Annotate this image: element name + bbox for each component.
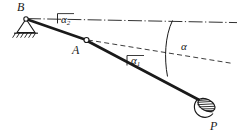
pin-support-icon <box>13 17 38 38</box>
pin-joint-icon <box>84 38 89 43</box>
datum-line-from-b <box>27 19 237 23</box>
label-point-p: P <box>210 120 217 132</box>
label-point-b: B <box>17 1 24 13</box>
member-ba <box>26 19 87 40</box>
angle-arc-alpha <box>166 21 173 77</box>
statics-diagram: B A P α1 α2 α <box>0 0 238 135</box>
diagram-canvas <box>0 0 238 135</box>
load-weight-icon <box>194 96 217 118</box>
label-angle-alpha: α <box>181 41 187 52</box>
label-angle-alpha1-subscript: 1 <box>137 60 141 68</box>
label-angle-alpha1: α1 <box>131 55 140 68</box>
label-point-a: A <box>72 44 79 56</box>
label-angle-alpha2-subscript: 2 <box>67 19 71 27</box>
label-angle-alpha2: α2 <box>61 14 70 27</box>
